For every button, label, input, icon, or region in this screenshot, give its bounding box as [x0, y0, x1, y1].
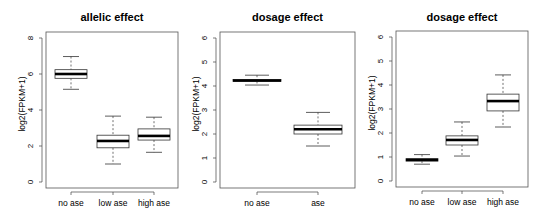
chart-title: dosage effect [427, 11, 498, 23]
y-tick-label: 4 [26, 107, 35, 112]
box-ase: ase [294, 112, 342, 208]
y-tick-label: 6 [376, 34, 385, 39]
panel-1: allelic effect02468log2(FPKM+1)no aselow… [17, 11, 178, 208]
box-high-ase: high ase [138, 117, 170, 208]
y-tick-label: 2 [200, 131, 209, 136]
y-tick-label: 0 [376, 178, 385, 183]
y-tick-label: 1 [376, 154, 385, 159]
x-tick-label: no ase [58, 198, 84, 208]
y-tick-label: 5 [376, 58, 385, 63]
y-tick-label: 8 [26, 35, 35, 40]
y-tick-label: 0 [26, 179, 35, 184]
x-tick-label: ase [311, 198, 325, 208]
y-axis-label: log2(FPKM+1) [17, 76, 27, 131]
x-tick-label: no ase [244, 198, 270, 208]
y-tick-label: 4 [376, 82, 385, 87]
plot-frame [220, 32, 355, 188]
y-tick-label: 5 [200, 59, 209, 64]
y-axis-label: log2(FPKM+1) [367, 75, 377, 130]
x-tick-label: low ase [99, 198, 128, 208]
y-tick-label: 3 [376, 106, 385, 111]
chart-canvas: allelic effect02468log2(FPKM+1)no aselow… [0, 0, 544, 211]
box-low-ase: low ase [446, 122, 478, 207]
iqr-box [487, 94, 519, 111]
x-tick-label: high ase [138, 198, 170, 208]
panel-2: dosage effect0123456log2(FPKM+1)no aseas… [191, 11, 355, 208]
y-tick-label: 1 [200, 155, 209, 160]
chart-title: dosage effect [252, 11, 323, 23]
box-no-ase: no ase [406, 155, 438, 207]
chart-title: allelic effect [81, 11, 144, 23]
y-axis-label: log2(FPKM+1) [191, 76, 201, 131]
box-low-ase: low ase [97, 116, 129, 208]
y-tick-label: 2 [376, 130, 385, 135]
y-tick-label: 6 [26, 71, 35, 76]
plot-frame [46, 32, 178, 188]
boxplot-figure: allelic effect02468log2(FPKM+1)no aselow… [0, 0, 544, 211]
y-tick-label: 6 [200, 35, 209, 40]
y-tick-label: 0 [200, 179, 209, 184]
panel-3: dosage effect0123456log2(FPKM+1)no aselo… [367, 11, 528, 207]
box-no-ase: no ase [55, 57, 87, 208]
y-tick-label: 4 [200, 83, 209, 88]
x-tick-label: no ase [409, 197, 435, 207]
x-tick-label: high ase [487, 197, 519, 207]
y-tick-label: 2 [26, 143, 35, 148]
x-tick-label: low ase [448, 197, 477, 207]
iqr-box [138, 129, 170, 140]
y-tick-label: 3 [200, 107, 209, 112]
